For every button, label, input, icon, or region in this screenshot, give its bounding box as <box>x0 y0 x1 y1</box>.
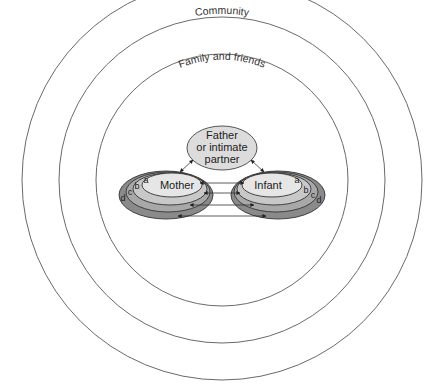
mother-letter-c: c <box>128 187 133 197</box>
partner-label-line3: partner <box>205 153 240 165</box>
community-ring <box>59 17 385 343</box>
mother-node: Mother a b c d <box>119 171 213 219</box>
mother-label: Mother <box>160 179 195 191</box>
infant-letter-a: a <box>294 175 299 185</box>
edge-partner-mother <box>180 160 193 172</box>
figure-caption <box>0 379 431 388</box>
partner-label-line2: or intimate <box>196 141 247 153</box>
infant-letter-c: c <box>311 190 316 200</box>
mother-letter-a: a <box>143 175 148 185</box>
partner-node: Father or intimate partner <box>187 126 257 170</box>
ecological-diagram: Community Family and friends Father or i… <box>0 0 431 388</box>
infant-letter-d: d <box>316 195 321 205</box>
mother-letter-b: b <box>134 181 139 191</box>
family-label: Family and friends <box>177 50 268 70</box>
infant-letter-b: b <box>303 185 308 195</box>
partner-label-line1: Father <box>206 129 238 141</box>
mother-letter-d: d <box>120 193 125 203</box>
infant-label: Infant <box>254 179 282 191</box>
infant-node: Infant a b c d <box>231 171 325 219</box>
community-label: Community <box>194 4 251 18</box>
edge-partner-infant <box>251 160 264 172</box>
